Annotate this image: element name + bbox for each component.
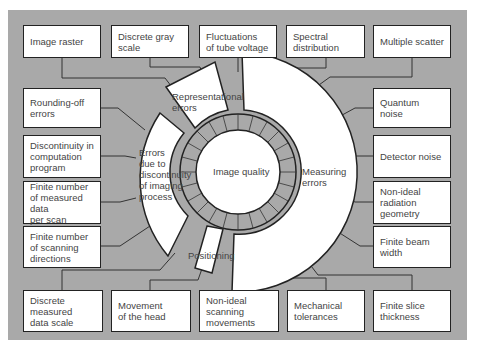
box-spectral-distribution: Spectral distribution [286, 25, 365, 58]
box-discrete-measured-data-scale: Discrete measured data scale [23, 290, 103, 332]
box-movement-of-head: Movement of the head [111, 290, 191, 332]
representational-errors-label: Representational errors [172, 91, 244, 113]
center-label: Image quality [213, 166, 270, 177]
box-rounding-off: Rounding-off errors [23, 88, 101, 128]
discontinuity-errors-label: Errors due to discontinuity of imaging p… [139, 147, 191, 202]
box-scanning-directions: Finite number of scanning directions [23, 226, 101, 268]
box-discontinuity-program: Discontinuity in computation program [23, 135, 101, 178]
box-multiple-scatter: Multiple scatter [373, 25, 451, 58]
measuring-errors-label: Measuring errors [302, 166, 346, 188]
box-mechanical-tolerances: Mechanical tolerances [287, 290, 365, 332]
positioning-label: Positioning [188, 250, 234, 261]
box-radiation-geometry: Non-ideal radiation geometry [373, 181, 451, 224]
box-finite-slice-thickness: Finite slice thickness [373, 290, 451, 332]
box-quantum-noise: Quantum noise [373, 88, 451, 128]
box-image-raster: Image raster [23, 25, 101, 58]
box-measured-data-per-scan: Finite number of measured data per scan [23, 181, 101, 224]
box-scanning-movements: Non-ideal scanning movements [199, 290, 279, 332]
box-finite-beam-width: Finite beam width [373, 226, 451, 268]
box-tube-voltage: Fluctuations of tube voltage [199, 25, 277, 58]
box-detector-noise: Detector noise [373, 135, 451, 178]
box-discrete-gray-scale: Discrete gray scale [111, 25, 189, 58]
